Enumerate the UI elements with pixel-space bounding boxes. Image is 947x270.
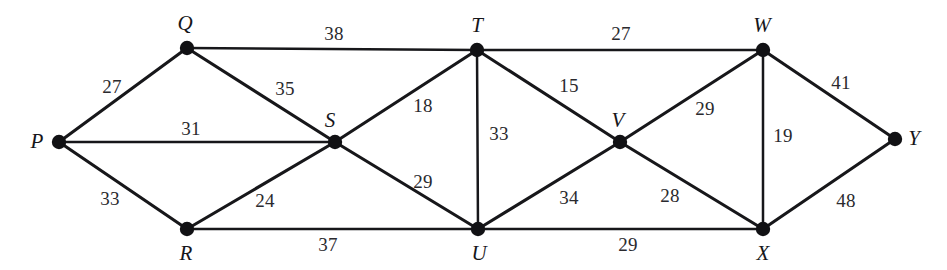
edge-r-s: [187, 142, 335, 229]
edge-u-v: [478, 142, 620, 229]
node-v: [613, 135, 627, 149]
edge-w-y: [763, 50, 895, 139]
edge-v-w: [620, 50, 763, 142]
node-r: [180, 222, 194, 236]
node-p: [52, 135, 66, 149]
node-q: [180, 41, 194, 55]
node-s: [328, 135, 342, 149]
edge-q-s: [187, 48, 335, 142]
node-y: [888, 132, 902, 146]
edge-v-x: [620, 142, 763, 229]
edge-t-v: [477, 50, 620, 142]
edges-layer: [59, 48, 895, 229]
edge-s-t: [335, 50, 477, 142]
edge-t-u: [477, 50, 478, 229]
node-w: [756, 43, 770, 57]
edge-p-r: [59, 142, 187, 229]
edge-x-y: [763, 139, 895, 229]
edge-s-u: [335, 142, 478, 229]
edge-p-q: [59, 48, 187, 142]
node-x: [756, 222, 770, 236]
node-t: [470, 43, 484, 57]
edge-q-t: [187, 48, 477, 50]
graph-figure: PQRSTUVWXY273133353824371829331527342929…: [0, 0, 947, 270]
graph-canvas: [0, 0, 947, 270]
node-u: [471, 222, 485, 236]
